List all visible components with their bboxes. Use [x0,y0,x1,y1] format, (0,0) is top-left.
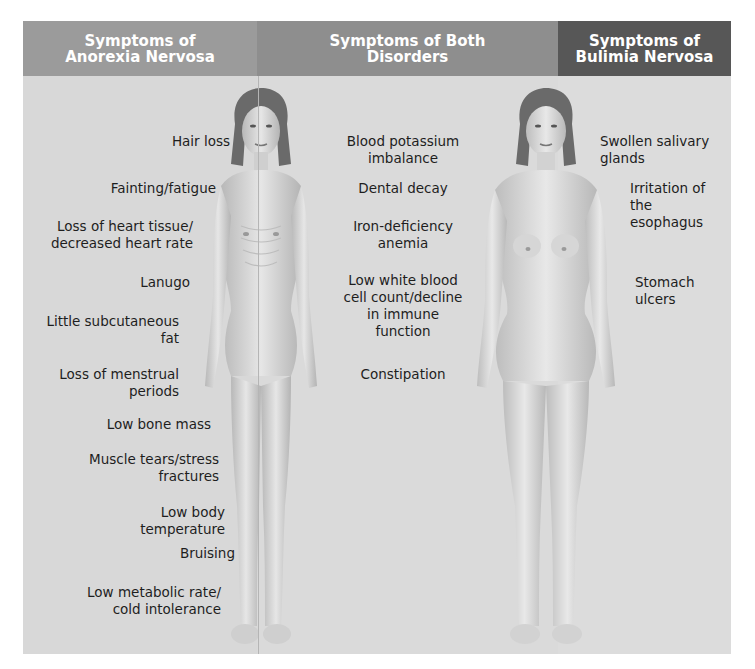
header-both-label: Symptoms of Both Disorders [330,33,486,65]
anorexia-symptom: Low metabolic rate/ cold intolerance [87,584,221,618]
header-bulimia: Symptoms of Bulimia Nervosa [558,21,731,76]
bulimia-symptom: Stomach ulcers [635,274,731,308]
symptoms-diagram: Symptoms of Anorexia Nervosa Symptoms of… [23,21,731,654]
shared-symptom: Constipation [333,366,473,383]
anorexia-symptom: Loss of menstrual periods [59,366,179,400]
bulimia-symptom: Irritation of the esophagus [630,180,731,231]
shared-symptom: Iron-deficiency anemia [333,218,473,252]
column-divider [258,76,259,654]
anorexia-symptom: Muscle tears/stress fractures [89,451,219,485]
diagram-body: Hair loss Fainting/fatigue Loss of heart… [23,76,731,654]
header-both: Symptoms of Both Disorders [257,21,558,76]
shared-symptom: Low white blood cell count/decline in im… [333,272,473,340]
bulimia-symptom: Swollen salivary glands [600,133,709,167]
anorexia-symptom: Bruising [180,545,235,562]
anorexia-symptom: Low bone mass [107,416,211,433]
shared-symptom: Dental decay [333,180,473,197]
anorexia-symptom: Little subcutaneous fat [46,313,179,347]
anorexia-symptom: Lanugo [140,274,190,291]
header-bulimia-label: Symptoms of Bulimia Nervosa [576,33,714,65]
header-anorexia-label: Symptoms of Anorexia Nervosa [65,33,215,65]
header-anorexia: Symptoms of Anorexia Nervosa [23,21,257,76]
anorexia-symptom: Loss of heart tissue/ decreased heart ra… [51,218,193,252]
anorexia-symptom: Hair loss [172,133,230,150]
anorexia-symptom: Fainting/fatigue [111,180,216,197]
shared-symptom: Blood potassium imbalance [333,133,473,167]
average-female-figure [461,86,631,651]
thin-female-figure [191,86,331,651]
anorexia-symptom: Low body temperature [140,504,225,538]
